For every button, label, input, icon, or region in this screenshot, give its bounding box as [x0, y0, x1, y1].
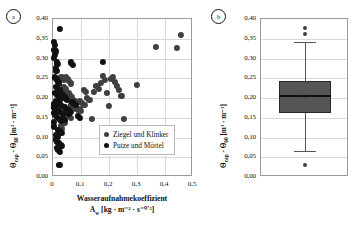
x-tick-label: 0,2: [104, 180, 113, 188]
scatter-point: [83, 89, 89, 95]
y-unit: [m³ · m⁻³]: [9, 104, 18, 137]
y-tick-label: 0,05: [36, 152, 48, 160]
legend-item-putze-und-moertel: Putze und Mörtel: [104, 140, 169, 151]
x-unit: [kg · m⁻² · s⁻⁰˙⁵]: [99, 205, 154, 214]
legend-label-putze: Putze und Mörtel: [113, 141, 164, 150]
y-tick-label: 0,40: [36, 14, 48, 22]
x-label-line2: Aw [kg · m⁻² · s⁻⁰˙⁵]: [52, 204, 192, 219]
scatter-point: [89, 115, 95, 121]
whisker-upper-cap: [294, 42, 316, 43]
y-tick-label: 0,20: [36, 93, 48, 101]
y-minus-theta-b: - Θ: [219, 143, 228, 155]
gridline-horizontal: [53, 78, 191, 79]
scatter-point: [153, 44, 159, 50]
y-tick-label: 0,10: [244, 133, 256, 141]
legend-item-ziegel-und-klinker: Ziegel und Klinker: [104, 129, 169, 140]
y-sub-80: 80: [13, 137, 19, 142]
panel-b-plot-area: ×: [260, 18, 348, 176]
y-tick-label: 0,40: [244, 14, 256, 22]
panel-a-tag: a: [6, 9, 21, 24]
scatter-point: [86, 96, 92, 102]
x-tick-label: 0,4: [160, 180, 169, 188]
scatter-point: [68, 80, 74, 86]
y-tick-label: 0,05: [244, 152, 256, 160]
legend-marker-icon-putze: [104, 143, 109, 148]
scatter-point: [77, 115, 83, 121]
outlier-point: [303, 32, 307, 36]
panel-a-y-axis-label: Θcap - Θ80 [m³ · m⁻³]: [9, 104, 19, 168]
x-label-line1: Wasseraufnahmekoeffizient: [52, 193, 192, 204]
whisker-upper-stem: [305, 42, 306, 81]
panel-b-tag: b: [211, 9, 226, 24]
y-tick-label: 0,35: [36, 34, 48, 42]
x-tick-label: 0,1: [76, 180, 85, 188]
y-tick-label: 0,30: [36, 54, 48, 62]
mean-marker-icon: ×: [303, 93, 308, 101]
y-sub-cap: cap: [13, 154, 19, 162]
y-tick-label: 0,25: [244, 73, 256, 81]
y-tick-label: 0,30: [244, 54, 256, 62]
scatter-point: [57, 26, 63, 32]
panel-b-boxplot: b Θcap - Θ80 [m³ · m⁻³] 0,000,050,100,15…: [205, 0, 360, 236]
scatter-point: [106, 103, 112, 109]
scatter-point: [56, 162, 62, 168]
outlier-point: [303, 163, 307, 167]
scatter-point: [70, 62, 76, 68]
gridline-vertical: [81, 19, 82, 175]
whisker-lower-stem: [305, 113, 306, 151]
whisker-lower-cap: [294, 151, 316, 152]
y-tick-label: 0,25: [36, 73, 48, 81]
gridline-horizontal: [53, 39, 191, 40]
scatter-point: [116, 87, 122, 93]
y-sub-cap-b: cap: [223, 154, 229, 162]
legend-label-ziegel: Ziegel und Klinker: [113, 130, 169, 139]
gridline-horizontal: [261, 157, 347, 158]
x-tick-label: 0,5: [188, 180, 197, 188]
panel-a-scatter: a Θcap - Θ80 [m³ · m⁻³] 0,000,050,100,15…: [0, 0, 205, 236]
y-tick-label: 0,15: [244, 113, 256, 121]
scatter-point: [120, 116, 126, 122]
x-tick-label: 0: [50, 180, 54, 188]
scatter-point: [174, 45, 180, 51]
y-sub-80-b: 80: [223, 137, 229, 142]
x-tick-label: 0,3: [132, 180, 141, 188]
panel-b-y-axis-label: Θcap - Θ80 [m³ · m⁻³]: [219, 104, 229, 168]
y-tick-label: 0,00: [244, 172, 256, 180]
outlier-point: [303, 26, 307, 30]
panel-a-legend: Ziegel und Klinker Putze und Mörtel: [99, 125, 175, 155]
y-minus-theta: - Θ: [9, 143, 18, 155]
legend-marker-icon-ziegel: [104, 132, 109, 137]
scatter-point: [53, 68, 59, 74]
y-tick-label: 0,15: [36, 113, 48, 121]
gridline-horizontal: [53, 59, 191, 60]
figure-root: a Θcap - Θ80 [m³ · m⁻³] 0,000,050,100,15…: [0, 0, 360, 236]
scatter-point: [57, 149, 63, 155]
y-tick-label: 0,35: [244, 34, 256, 42]
gridline-horizontal: [53, 157, 191, 158]
scatter-point: [178, 32, 184, 38]
panel-a-x-axis-label: Wasseraufnahmekoeffizient Aw [kg · m⁻² ·…: [52, 193, 192, 219]
scatter-point: [100, 59, 106, 65]
gridline-horizontal: [261, 39, 347, 40]
y-tick-label: 0,10: [36, 133, 48, 141]
y-unit-b: [m³ · m⁻³]: [219, 104, 228, 137]
scatter-point: [134, 81, 140, 87]
y-tick-label: 0,00: [36, 172, 48, 180]
y-theta-symbol-b: Θ: [219, 162, 228, 168]
scatter-point: [96, 86, 102, 92]
y-theta-symbol: Θ: [9, 162, 18, 168]
y-tick-label: 0,20: [244, 93, 256, 101]
panel-a-plot-area: Ziegel und Klinker Putze und Mörtel: [52, 18, 192, 176]
